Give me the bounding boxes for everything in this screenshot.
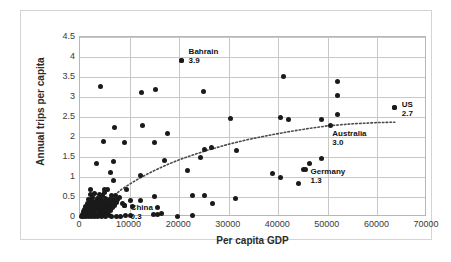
scatter-point xyxy=(124,187,129,192)
scatter-point xyxy=(98,84,103,89)
annotation-value: 1.3 xyxy=(311,176,346,185)
gridline-horizontal xyxy=(80,117,425,118)
gridline-vertical xyxy=(179,37,180,215)
scatter-point xyxy=(335,112,340,117)
scatter-point xyxy=(278,115,283,120)
scatter-point xyxy=(228,116,233,121)
y-tick-label: 4 xyxy=(70,52,75,61)
gridline-horizontal xyxy=(80,77,425,78)
annotation-label: US xyxy=(402,100,413,109)
scatter-point xyxy=(111,178,116,183)
x-tick-label: 30000 xyxy=(215,219,240,229)
scatter-point xyxy=(335,93,340,98)
y-tick-label: 3 xyxy=(70,92,75,101)
scatter-point xyxy=(162,158,167,163)
scatter-point-labeled xyxy=(392,105,397,110)
scatter-point xyxy=(139,90,144,95)
scatter-point xyxy=(111,159,116,164)
scatter-point xyxy=(155,205,160,210)
gridline-vertical xyxy=(130,37,131,215)
chart-frame: 00.511.522.533.544.5 Bahrain3.9US2.7Aust… xyxy=(20,10,432,240)
x-tick-label: 50000 xyxy=(314,219,339,229)
y-tick-label: 2.5 xyxy=(62,112,75,121)
plot-area: Bahrain3.9US2.7Australia3.0Germany1.3Chi… xyxy=(79,36,426,216)
scatter-point-labeled xyxy=(328,123,333,128)
scatter-point xyxy=(335,79,340,84)
x-tick-label: 60000 xyxy=(364,219,389,229)
scatter-point-labeled xyxy=(179,58,184,63)
scatter-point-labeled xyxy=(303,167,308,172)
scatter-point xyxy=(88,187,93,192)
annotation-value: 3.0 xyxy=(332,138,366,147)
annotation-label: Australia xyxy=(332,129,366,138)
scatter-point xyxy=(165,131,170,136)
scatter-point xyxy=(153,87,158,92)
scatter-point xyxy=(155,212,160,217)
x-tick-label: 70000 xyxy=(413,219,438,229)
gridline-vertical xyxy=(278,37,279,215)
y-axis-tick-labels: 00.511.522.533.544.5 xyxy=(41,36,75,216)
gridline-horizontal xyxy=(80,137,425,138)
scatter-point xyxy=(140,123,145,128)
scatter-point xyxy=(270,171,275,176)
scatter-point xyxy=(209,145,214,150)
y-tick-label: 1.5 xyxy=(62,152,75,161)
scatter-point xyxy=(190,193,195,198)
vertical-gridlines xyxy=(80,37,425,215)
annotation-label: Bahrain xyxy=(189,47,219,56)
x-tick-label: 20000 xyxy=(166,219,191,229)
annotation-label: Germany xyxy=(311,167,346,176)
x-tick-label: 0 xyxy=(76,219,81,229)
scatter-point xyxy=(152,194,157,199)
gridline-horizontal xyxy=(80,157,425,158)
scatter-point xyxy=(281,74,286,79)
scatter-point xyxy=(108,170,113,175)
gridline-horizontal xyxy=(80,177,425,178)
scatter-point xyxy=(123,213,128,218)
scatter-point xyxy=(101,139,106,144)
scatter-point xyxy=(278,175,283,180)
gridline-horizontal xyxy=(80,97,425,98)
annotation-value: 3.9 xyxy=(189,56,219,65)
gridline-horizontal xyxy=(80,37,425,38)
scatter-point xyxy=(94,161,99,166)
annotation-value: 2.7 xyxy=(402,109,413,118)
x-tick-label: 40000 xyxy=(265,219,290,229)
scatter-point xyxy=(296,181,301,186)
scatter-point xyxy=(210,201,215,206)
gridline-vertical xyxy=(377,37,378,215)
scatter-point xyxy=(286,117,291,122)
scatter-point xyxy=(201,89,206,94)
scatter-point-labeled xyxy=(122,203,127,208)
x-tick-label: 10000 xyxy=(116,219,141,229)
scatter-point xyxy=(198,155,203,160)
trendline xyxy=(80,37,427,217)
point-annotation: US2.7 xyxy=(402,100,413,118)
scatter-point xyxy=(152,140,157,145)
scatter-point xyxy=(122,140,127,145)
scatter-point xyxy=(138,173,143,178)
point-annotation: Bahrain3.9 xyxy=(189,47,219,65)
scatter-point xyxy=(319,117,324,122)
scatter-point xyxy=(175,214,180,219)
y-tick-label: 4.5 xyxy=(62,32,75,41)
scatter-point xyxy=(202,147,207,152)
scatter-point xyxy=(307,161,312,166)
gridline-horizontal xyxy=(80,57,425,58)
gridline-vertical xyxy=(229,37,230,215)
scatter-point xyxy=(202,193,207,198)
annotation-label: China xyxy=(131,203,153,212)
x-axis-title: Per capita GDP xyxy=(79,235,426,246)
y-tick-label: 0.5 xyxy=(62,192,75,201)
x-axis-tick-labels: 010000200003000040000500006000070000 xyxy=(79,219,426,233)
scatter-point xyxy=(112,125,117,130)
scatter-point xyxy=(319,156,324,161)
y-tick-label: 3.5 xyxy=(62,72,75,81)
point-annotation: Australia3.0 xyxy=(332,129,366,147)
scatter-point xyxy=(185,168,190,173)
scatter-point xyxy=(190,213,195,218)
y-tick-label: 0 xyxy=(70,212,75,221)
horizontal-gridlines xyxy=(80,37,425,215)
scatter-point xyxy=(234,148,239,153)
chart-figure: 00.511.522.533.544.5 Bahrain3.9US2.7Aust… xyxy=(0,0,451,262)
